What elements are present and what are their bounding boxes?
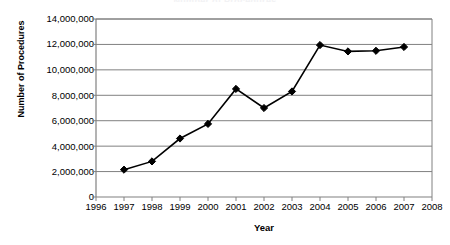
gridlines [96,19,432,172]
data-point-marker [316,41,323,48]
data-point-marker [372,47,379,54]
data-point-marker [288,88,295,95]
x-axis-title: Year [96,222,432,233]
line-chart: Number of Procedures Number of Procedure… [0,0,450,245]
data-point-marker [344,48,351,55]
data-markers [120,41,407,173]
x-tick-label: 2008 [412,201,450,212]
data-point-marker [120,166,127,173]
